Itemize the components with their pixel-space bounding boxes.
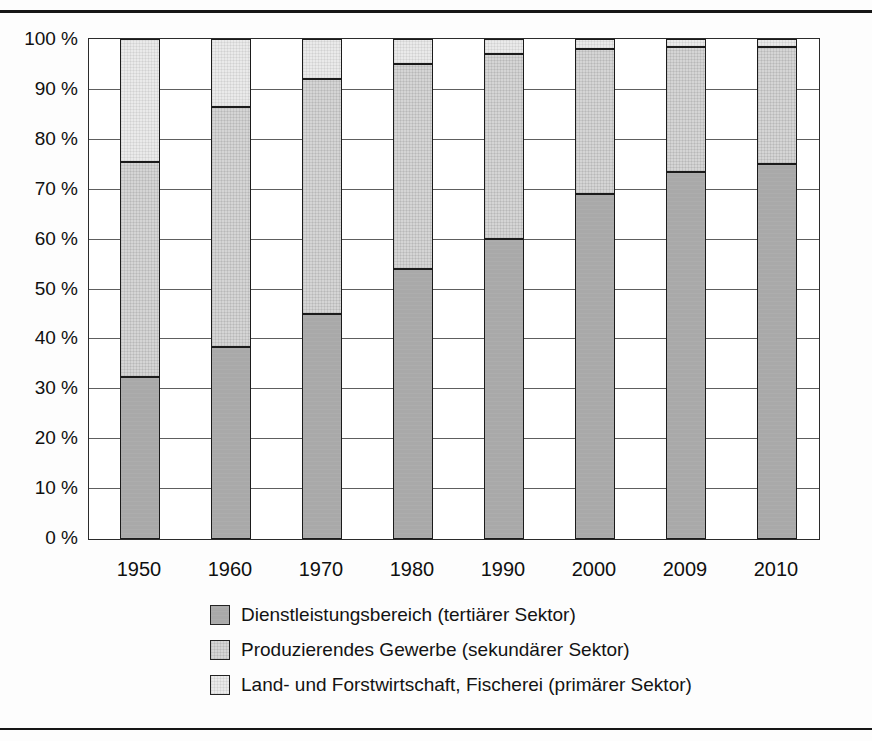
- segment-secondary-sector-2009: [666, 47, 706, 172]
- y-tick-label-20: 20 %: [0, 428, 78, 448]
- segment-primary-sector-1980: [393, 39, 433, 64]
- y-tick-label-90: 90 %: [0, 79, 78, 99]
- segment-tertiary-sector-2010: [757, 164, 797, 539]
- legend-swatch-secondary-sector: [210, 640, 230, 660]
- segment-tertiary-sector-1980: [393, 269, 433, 539]
- bar-1980: [393, 39, 433, 539]
- y-tick-label-70: 70 %: [0, 179, 78, 199]
- bar-1960: [211, 39, 251, 539]
- segment-secondary-sector-1950: [120, 162, 160, 377]
- segment-secondary-sector-2000: [575, 49, 615, 194]
- bar-2000: [575, 39, 615, 539]
- gridline-50: [89, 289, 819, 290]
- segment-primary-sector-1950: [120, 39, 160, 162]
- y-tick-label-0: 0 %: [0, 528, 78, 548]
- segment-secondary-sector-2010: [757, 47, 797, 165]
- y-tick-label-40: 40 %: [0, 328, 78, 348]
- legend: Dienstleistungsbereich (tertiärer Sektor…: [210, 604, 692, 696]
- gridline-80: [89, 139, 819, 140]
- legend-item-primary-sector: Land- und Forstwirtschaft, Fischerei (pr…: [210, 674, 692, 696]
- gridline-40: [89, 338, 819, 339]
- segment-tertiary-sector-2009: [666, 172, 706, 540]
- x-tick-label-2000: 2000: [546, 558, 642, 581]
- gridline-10: [89, 488, 819, 489]
- gridline-90: [89, 89, 819, 90]
- y-tick-label-80: 80 %: [0, 129, 78, 149]
- gridline-70: [89, 189, 819, 190]
- x-tick-label-2009: 2009: [637, 558, 733, 581]
- x-tick-label-1990: 1990: [455, 558, 551, 581]
- legend-label-secondary-sector: Produzierendes Gewerbe (sekundärer Sekto…: [241, 639, 630, 661]
- legend-swatch-tertiary-sector: [210, 605, 230, 625]
- segment-primary-sector-1990: [484, 39, 524, 54]
- y-tick-label-10: 10 %: [0, 478, 78, 498]
- segment-primary-sector-1960: [211, 39, 251, 107]
- segment-tertiary-sector-1950: [120, 377, 160, 540]
- segment-primary-sector-2009: [666, 39, 706, 47]
- top-rule-divider: [0, 10, 872, 13]
- segment-tertiary-sector-1970: [302, 314, 342, 539]
- gridline-30: [89, 388, 819, 389]
- segment-secondary-sector-1980: [393, 64, 433, 269]
- bar-1950: [120, 39, 160, 539]
- x-tick-label-1970: 1970: [273, 558, 369, 581]
- segment-secondary-sector-1960: [211, 107, 251, 347]
- x-tick-label-1960: 1960: [182, 558, 278, 581]
- legend-label-tertiary-sector: Dienstleistungsbereich (tertiärer Sektor…: [241, 604, 576, 626]
- figure-canvas: 100 %90 %80 %70 %60 %50 %40 %30 %20 %10 …: [0, 0, 872, 741]
- segment-tertiary-sector-2000: [575, 194, 615, 539]
- bar-2009: [666, 39, 706, 539]
- segment-tertiary-sector-1990: [484, 239, 524, 539]
- legend-item-tertiary-sector: Dienstleistungsbereich (tertiärer Sektor…: [210, 604, 692, 626]
- legend-swatch-primary-sector: [210, 675, 230, 695]
- bottom-rule-divider: [0, 728, 872, 730]
- segment-secondary-sector-1990: [484, 54, 524, 239]
- segment-primary-sector-2000: [575, 39, 615, 49]
- y-tick-label-100: 100 %: [0, 29, 78, 49]
- segment-primary-sector-1970: [302, 39, 342, 79]
- bar-2010: [757, 39, 797, 539]
- x-tick-label-2010: 2010: [728, 558, 824, 581]
- bar-1990: [484, 39, 524, 539]
- plot-area: [88, 38, 820, 540]
- segment-secondary-sector-1970: [302, 79, 342, 314]
- segment-primary-sector-2010: [757, 39, 797, 47]
- x-tick-label-1950: 1950: [91, 558, 187, 581]
- y-tick-label-30: 30 %: [0, 378, 78, 398]
- bar-1970: [302, 39, 342, 539]
- gridline-20: [89, 438, 819, 439]
- gridline-60: [89, 239, 819, 240]
- y-tick-label-60: 60 %: [0, 229, 78, 249]
- legend-label-primary-sector: Land- und Forstwirtschaft, Fischerei (pr…: [241, 674, 692, 696]
- segment-tertiary-sector-1960: [211, 347, 251, 540]
- y-tick-label-50: 50 %: [0, 279, 78, 299]
- legend-item-secondary-sector: Produzierendes Gewerbe (sekundärer Sekto…: [210, 639, 692, 661]
- x-tick-label-1980: 1980: [364, 558, 460, 581]
